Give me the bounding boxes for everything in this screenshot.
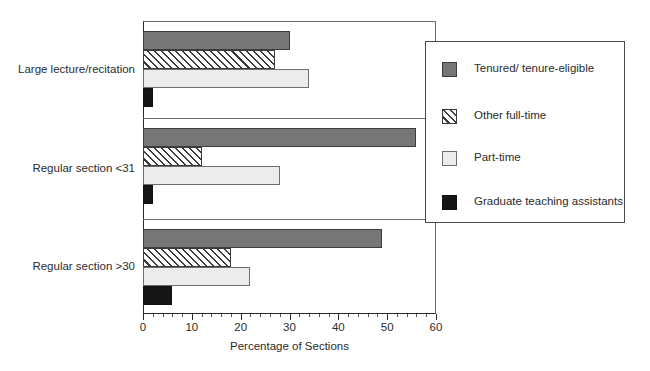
group-separator-1: [143, 219, 437, 220]
x-tick-minor-8: [182, 314, 183, 317]
x-tick-minor-22: [250, 314, 251, 317]
legend-label-1: Other full-time: [474, 110, 546, 122]
x-tick-50: [387, 314, 388, 320]
legend-swatch-icon-1: [442, 109, 457, 124]
legend-item-0: Tenured/ tenure-eligible: [442, 61, 594, 77]
group-separator-0: [143, 118, 437, 119]
x-tick-minor-58: [426, 314, 427, 317]
x-tick-label-20: 20: [234, 322, 247, 334]
x-tick-30: [290, 314, 291, 320]
legend-item-3: Graduate teaching assistants: [442, 194, 623, 210]
chart-legend: Tenured/ tenure-eligibleOther full-timeP…: [425, 41, 625, 223]
legend-swatch-icon-2: [442, 151, 457, 166]
x-tick-40: [338, 314, 339, 320]
x-tick-minor-36: [319, 314, 320, 317]
x-tick-minor-16: [221, 314, 222, 317]
bar-s2-group-0: [143, 69, 309, 88]
x-tick-label-40: 40: [332, 322, 345, 334]
x-tick-label-0: 0: [140, 322, 146, 334]
bar-chart-figure: Large lecture/recitationRegular section …: [0, 0, 650, 371]
x-tick-minor-44: [358, 314, 359, 317]
x-tick-60: [436, 314, 437, 320]
x-tick-label-50: 50: [381, 322, 394, 334]
legend-label-0: Tenured/ tenure-eligible: [474, 63, 594, 75]
bar-s3-group-1: [143, 185, 153, 204]
x-tick-minor-56: [416, 314, 417, 317]
legend-item-2: Part-time: [442, 150, 521, 166]
x-tick-minor-52: [397, 314, 398, 317]
category-label-1: Regular section <31: [32, 163, 135, 175]
x-tick-minor-48: [377, 314, 378, 317]
x-tick-minor-46: [368, 314, 369, 317]
bar-s0-group-2: [143, 229, 382, 248]
x-tick-minor-28: [280, 314, 281, 317]
bar-s0-group-1: [143, 128, 416, 147]
x-tick-minor-32: [299, 314, 300, 317]
legend-item-1: Other full-time: [442, 108, 546, 124]
legend-label-3: Graduate teaching assistants: [474, 196, 623, 208]
x-tick-label-30: 30: [283, 322, 296, 334]
x-tick-minor-38: [329, 314, 330, 317]
x-tick-minor-18: [231, 314, 232, 317]
x-tick-minor-42: [348, 314, 349, 317]
legend-label-2: Part-time: [474, 152, 521, 164]
x-tick-minor-26: [270, 314, 271, 317]
bar-s3-group-2: [143, 286, 172, 305]
bar-s1-group-1: [143, 147, 202, 166]
bar-s2-group-2: [143, 267, 250, 286]
bar-s3-group-0: [143, 88, 153, 107]
x-tick-label-60: 60: [430, 322, 443, 334]
x-tick-10: [192, 314, 193, 320]
bar-s2-group-1: [143, 166, 280, 185]
x-tick-label-10: 10: [185, 322, 198, 334]
legend-swatch-icon-0: [442, 62, 457, 77]
bar-s1-group-2: [143, 248, 231, 267]
bar-s0-group-0: [143, 31, 290, 50]
x-tick-0: [143, 314, 144, 320]
x-tick-minor-54: [407, 314, 408, 317]
x-tick-minor-2: [153, 314, 154, 317]
category-label-0: Large lecture/recitation: [18, 64, 135, 76]
x-tick-minor-34: [309, 314, 310, 317]
x-tick-minor-24: [260, 314, 261, 317]
x-tick-minor-6: [172, 314, 173, 317]
bar-s1-group-0: [143, 50, 275, 69]
x-tick-20: [241, 314, 242, 320]
x-tick-minor-4: [163, 314, 164, 317]
category-label-2: Regular section >30: [32, 261, 135, 273]
x-tick-minor-14: [211, 314, 212, 317]
x-tick-minor-12: [202, 314, 203, 317]
x-axis-title: Percentage of Sections: [143, 341, 436, 353]
legend-swatch-icon-3: [442, 195, 457, 210]
